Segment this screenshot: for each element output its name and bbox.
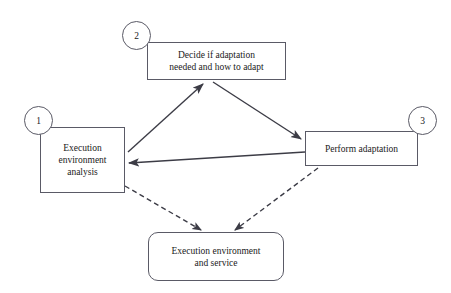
step-badge-label: 2 bbox=[134, 31, 139, 41]
node-label: Execution environment and service bbox=[168, 245, 265, 269]
step-badge-2: 2 bbox=[122, 21, 151, 50]
step-badge-label: 1 bbox=[36, 116, 41, 126]
edge-decide-to-perform bbox=[213, 82, 301, 139]
step-badge-3: 3 bbox=[408, 106, 437, 135]
edge-perform-to-analysis bbox=[129, 152, 305, 163]
node-execution-environment-analysis[interactable]: Execution environment analysis bbox=[40, 127, 125, 193]
node-perform-adaptation[interactable]: Perform adaptation bbox=[305, 131, 418, 166]
adaptation-loop-diagram: Execution environment analysis Decide if… bbox=[0, 0, 451, 293]
edge-analysis-to-decide bbox=[128, 84, 203, 152]
node-label: Decide if adaptation needed and how to a… bbox=[165, 49, 267, 73]
step-badge-label: 3 bbox=[420, 116, 425, 126]
edge-perform-to-service bbox=[235, 168, 318, 230]
step-badge-1: 1 bbox=[24, 106, 53, 135]
node-label: Execution environment analysis bbox=[54, 142, 110, 178]
edge-analysis-to-service bbox=[125, 186, 201, 230]
node-decide-if-adaptation[interactable]: Decide if adaptation needed and how to a… bbox=[147, 42, 286, 80]
node-execution-environment-and-service[interactable]: Execution environment and service bbox=[148, 232, 284, 281]
node-label: Perform adaptation bbox=[321, 143, 402, 155]
